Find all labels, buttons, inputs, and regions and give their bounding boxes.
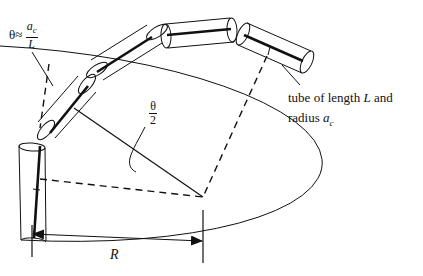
half-theta-fraction: θ 2: [149, 100, 157, 127]
solid-bisector-line: [74, 108, 203, 197]
tube-segment-1: [0, 46, 322, 242]
theta-leader: [32, 52, 53, 86]
tube-description-line1: tube of length L and: [288, 91, 393, 104]
tube-chain-diagram: θ≈ ac L θ 2 tube of length L and radius …: [0, 0, 423, 276]
tube-description-line2: radius ac: [288, 111, 334, 128]
diagram-graphics: [0, 0, 423, 276]
theta-fraction-denominator: L: [27, 38, 36, 51]
tube-segment-3: [84, 21, 170, 80]
approx-symbol: ≈: [15, 27, 22, 42]
tube-segment-4: [160, 18, 237, 48]
radius-label: R: [110, 248, 119, 262]
tube-segment-5: [233, 21, 316, 75]
half-theta-denominator: 2: [149, 114, 157, 127]
dashed-radius-right: [203, 56, 267, 197]
tube-segment-2: [34, 72, 98, 143]
half-theta-numerator: θ: [149, 100, 157, 113]
half-theta-leader: [129, 127, 145, 172]
theta-approx-label: θ≈ ac L: [9, 20, 38, 51]
half-theta-label: θ 2: [149, 100, 157, 127]
theta-fraction-numerator: ac: [26, 20, 38, 37]
dashed-radius-left: [40, 179, 203, 197]
dashed-angle-line: [40, 64, 49, 128]
theta-fraction: ac L: [26, 20, 38, 51]
